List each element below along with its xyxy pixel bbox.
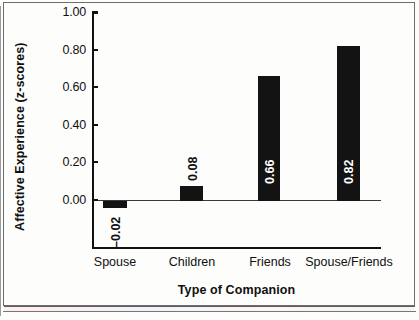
value-label-spouse: –0.02: [110, 217, 123, 248]
y-tick-4: [92, 49, 98, 51]
plot-bottom-line: [92, 247, 381, 249]
x-category-label-friends: Friends: [243, 256, 297, 269]
y-tick-label-5: 1.00: [40, 6, 86, 19]
x-category-label-spouse: Spouse: [88, 256, 142, 269]
y-tick-1: [92, 161, 98, 163]
x-category-label-spouse-friends: Spouse/Friends: [303, 256, 395, 269]
y-tick-label-0-wrap: 0.00: [36, 194, 86, 208]
y-tick-label-2: 0.40: [40, 119, 86, 132]
value-label-children: 0.08: [187, 157, 200, 181]
y-tick-label-4-wrap: 0.80: [36, 44, 86, 58]
y-tick-label-3: 0.60: [40, 81, 86, 94]
bar-spouse: [103, 201, 127, 208]
y-tick-3: [92, 86, 98, 88]
y-axis-line: [92, 12, 94, 248]
y-tick-label-5-wrap: 1.00: [36, 6, 86, 20]
value-label-friends: 0.66: [264, 160, 277, 184]
y-tick-2: [92, 124, 98, 126]
y-tick-label-0: 0.00: [40, 194, 86, 207]
y-tick-label-2-wrap: 0.40: [36, 119, 86, 133]
y-tick-label-1: 0.20: [40, 156, 86, 169]
y-axis-title: Affective Experience (z-scores): [14, 42, 27, 231]
chart-figure: 0.00 0.20 0.40 0.60 0.80 1.00 –0.02 0.08…: [0, 0, 419, 320]
y-tick-label-4: 0.80: [40, 44, 86, 57]
y-tick-label-3-wrap: 0.60: [36, 81, 86, 95]
y-tick-5: [92, 11, 98, 13]
bar-children: [180, 186, 203, 201]
x-category-label-children: Children: [161, 256, 223, 269]
y-tick-0: [92, 199, 98, 201]
x-axis-title: Type of Companion: [92, 283, 381, 297]
y-tick-label-1-wrap: 0.20: [36, 156, 86, 170]
plot-area: 0.00 0.20 0.40 0.60 0.80 1.00 –0.02 0.08…: [0, 0, 419, 320]
value-label-spouse-friends: 0.82: [343, 160, 356, 184]
